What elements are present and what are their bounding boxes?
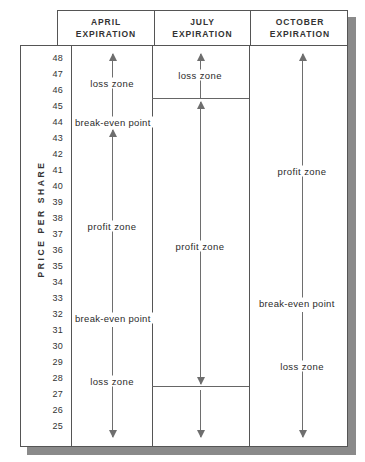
july-loss-bottom-arrow: [200, 390, 201, 437]
header-july-line1: JULY: [190, 16, 215, 28]
column-separator-july-october: [249, 46, 250, 446]
axis-tick-36: 36: [52, 246, 63, 255]
column-header-bar: APRIL EXPIRATION JULY EXPIRATION OCTOBER…: [57, 10, 348, 46]
october-break-even-label: break-even point: [257, 298, 337, 309]
axis-tick-37: 37: [52, 230, 63, 239]
axis-tick-47: 47: [52, 70, 63, 79]
arrow-head-down-icon: [197, 377, 205, 385]
axis-tick-30: 30: [52, 342, 63, 351]
july-upper-divider: [152, 98, 249, 99]
april-break-even-bottom-label: break-even point: [73, 313, 153, 324]
axis-tick-31: 31: [52, 326, 63, 335]
arrow-head-up-icon: [197, 53, 205, 61]
october-loss-arrow: [302, 312, 303, 437]
arrow-head-up-icon: [299, 53, 307, 61]
axis-tick-45: 45: [52, 102, 63, 111]
july-profit-label: profit zone: [173, 241, 228, 252]
header-april-line1: APRIL: [91, 16, 121, 28]
axis-tick-38: 38: [52, 214, 63, 223]
axis-tick-33: 33: [52, 294, 63, 303]
july-loss-top-label: loss zone: [175, 70, 225, 81]
arrow-head-up-icon: [197, 101, 205, 109]
arrow-head-up-icon: [109, 129, 117, 137]
header-october-line1: OCTOBER: [276, 16, 325, 28]
axis-tick-28: 28: [52, 374, 63, 383]
october-profit-label: profit zone: [275, 166, 330, 177]
axis-tick-42: 42: [52, 150, 63, 159]
april-loss-top-label: loss zone: [87, 78, 137, 89]
axis-tick-25: 25: [52, 422, 63, 431]
header-july-line2: EXPIRATION: [172, 28, 232, 40]
arrow-head-down-icon: [299, 430, 307, 438]
drop-shadow-bottom: [27, 446, 356, 455]
drop-shadow-right: [347, 17, 356, 455]
axis-tick-34: 34: [52, 278, 63, 287]
axis-title-price-per-share: PRICE PER SHARE: [36, 154, 46, 284]
axis-tick-44: 44: [52, 118, 63, 127]
axis-tick-27: 27: [52, 390, 63, 399]
april-break-even-top-label: break-even point: [73, 117, 153, 128]
april-profit-label: profit zone: [85, 221, 140, 232]
header-april-line2: EXPIRATION: [76, 28, 136, 40]
axis-tick-40: 40: [52, 182, 63, 191]
arrow-head-down-icon: [109, 430, 117, 438]
october-loss-label: loss zone: [277, 361, 327, 372]
axis-tick-32: 32: [52, 310, 63, 319]
header-column-april: APRIL EXPIRATION: [58, 11, 154, 45]
diagram-plot-area: PRICE PER SHARE 484746454443424140393837…: [20, 45, 348, 447]
july-lower-divider: [152, 386, 249, 387]
header-october-line2: EXPIRATION: [270, 28, 330, 40]
axis-tick-41: 41: [52, 166, 63, 175]
arrow-head-down-icon: [197, 430, 205, 438]
axis-tick-29: 29: [52, 358, 63, 367]
april-loss-bottom-label: loss zone: [87, 376, 137, 387]
price-axis: PRICE PER SHARE 484746454443424140393837…: [21, 46, 72, 446]
axis-tick-35: 35: [52, 262, 63, 271]
header-column-october: OCTOBER EXPIRATION: [250, 11, 349, 45]
axis-tick-43: 43: [52, 134, 63, 143]
arrow-head-up-icon: [109, 53, 117, 61]
axis-tick-46: 46: [52, 86, 63, 95]
october-profit-arrow: [302, 54, 303, 303]
axis-tick-48: 48: [52, 54, 63, 63]
header-column-july: JULY EXPIRATION: [154, 11, 250, 45]
axis-tick-26: 26: [52, 406, 63, 415]
axis-tick-39: 39: [52, 198, 63, 207]
